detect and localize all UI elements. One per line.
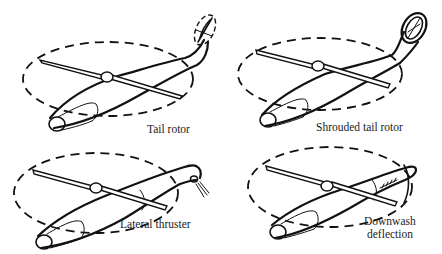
label-shrouded-tail-rotor: Shrouded tail rotor [316, 121, 403, 133]
rotor-blade-icon [331, 182, 397, 206]
panel-shrouded-tail-rotor: Shrouded tail rotor [238, 9, 432, 133]
shrouded-tail-rotor-icon [396, 9, 431, 48]
anti-torque-diagram: Tail rotor Shrouded tail rotor [0, 0, 442, 254]
rotor-hub-icon [90, 183, 102, 193]
rotor-blade-icon [266, 166, 325, 186]
rotor-hub-icon [101, 72, 113, 82]
label-lateral-thruster: Lateral thruster [120, 218, 191, 230]
rotor-blade-icon [256, 50, 316, 69]
label-downwash: Downwash [364, 215, 416, 227]
rotor-hub-icon [321, 181, 333, 191]
thrust-jet-icon [196, 182, 209, 197]
rotor-hub-icon [312, 61, 324, 71]
fuselage-icon [260, 32, 418, 127]
label-tail-rotor: Tail rotor [147, 123, 190, 135]
rotor-disc-icon [238, 38, 402, 110]
fuselage-icon [49, 40, 208, 131]
label-deflection: deflection [367, 228, 413, 240]
rotor-blade-icon [33, 170, 93, 190]
rotor-blade-icon [322, 64, 390, 88]
panel-tail-rotor: Tail rotor [23, 12, 220, 135]
panel-lateral-thruster: Lateral thruster [14, 153, 209, 249]
rotor-blade-icon [40, 60, 106, 80]
tail-rotor-icon [190, 12, 220, 49]
panel-downwash-deflection: Downwash deflection [248, 147, 416, 240]
